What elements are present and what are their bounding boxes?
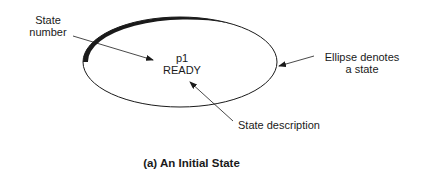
state-number-value: p1	[165, 52, 199, 64]
ellipse-label-line2: a state	[316, 63, 408, 75]
ellipse-label: Ellipse denotes a state	[316, 51, 408, 75]
initial-state-diagram: State number p1 READY Ellipse denotes a …	[0, 0, 421, 177]
ellipse-arrow	[279, 56, 314, 66]
ellipse-label-line1: Ellipse denotes	[316, 51, 408, 63]
state-number-label: State number	[18, 14, 78, 38]
state-number-label-line1: State	[18, 14, 78, 26]
figure-caption: (a) An Initial State	[0, 157, 421, 169]
ellipse-shadow	[83, 17, 232, 62]
state-description-label: State description	[238, 119, 320, 131]
state-description-value: READY	[158, 64, 206, 76]
state-number-label-line2: number	[18, 26, 78, 38]
